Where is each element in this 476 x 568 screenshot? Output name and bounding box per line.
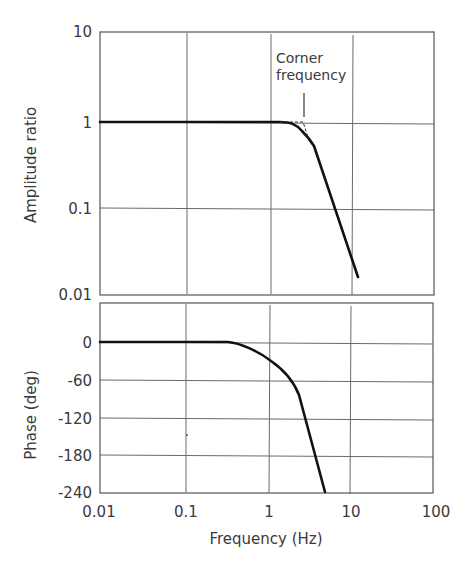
amplitude-panel: 10 1 0.1 0.01 Amplitude ratio Corner fre…: [22, 23, 434, 304]
phase-ytick-minus180: -180: [58, 447, 92, 465]
phase-panel: 0 -60 -120 -180 -240 Phase (deg): [22, 303, 433, 502]
scan-speck: [186, 434, 188, 436]
phase-curve: [100, 342, 325, 492]
amp-ytick-1: 1: [82, 114, 92, 132]
phase-ytick-minus240: -240: [58, 484, 92, 502]
amp-ytick-10: 10: [73, 23, 92, 41]
xtick-1: 1: [264, 503, 274, 521]
phase-grid: [100, 304, 433, 494]
bode-plot: 10 1 0.1 0.01 Amplitude ratio Corner fre…: [0, 0, 476, 568]
phase-axis-label: Phase (deg): [22, 370, 40, 460]
corner-annotation-line2: frequency: [276, 67, 346, 83]
corner-annotation-line1: Corner: [276, 50, 323, 66]
xtick-100: 100: [422, 503, 451, 521]
phase-ytick-minus60: -60: [68, 372, 93, 390]
phase-ytick-0: 0: [82, 334, 92, 352]
xtick-0.1: 0.1: [174, 503, 198, 521]
phase-ytick-minus120: -120: [58, 410, 92, 428]
amplitude-curve: [100, 122, 358, 277]
frequency-axis-label: Frequency (Hz): [209, 530, 322, 548]
phase-frame: [100, 303, 433, 493]
amplitude-grid: [100, 33, 434, 295]
xtick-0.01: 0.01: [82, 503, 115, 521]
amp-ytick-0.01: 0.01: [59, 286, 92, 304]
amplitude-axis-label: Amplitude ratio: [22, 107, 40, 223]
amp-ytick-0.1: 0.1: [68, 200, 92, 218]
x-axis-ticks: 0.01 0.1 1 10 100: [82, 503, 450, 521]
amplitude-frame: [100, 32, 434, 295]
xtick-10: 10: [341, 503, 360, 521]
